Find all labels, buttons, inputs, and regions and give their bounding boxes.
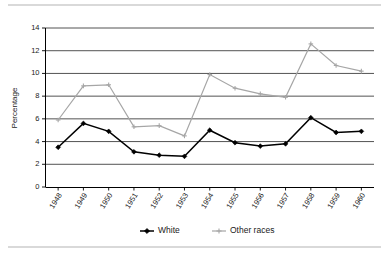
- data-point-marker: [359, 129, 364, 134]
- y-tick-label: 0: [35, 182, 39, 191]
- series-line-2: [58, 44, 361, 136]
- x-tick-label: 1953: [174, 191, 190, 210]
- chart-legend: WhiteOther races: [140, 225, 274, 235]
- x-tick-label: 1960: [351, 191, 367, 210]
- y-axis-title: Percentage: [10, 87, 19, 128]
- data-point-marker: [157, 153, 162, 158]
- x-axis-tick-labels: 1948194919501951195219531954195519561957…: [47, 191, 367, 210]
- x-tick-label: 1958: [300, 191, 316, 210]
- y-tick-label: 4: [35, 137, 39, 146]
- x-tick-label: 1952: [148, 191, 164, 210]
- y-tick-label: 10: [31, 68, 39, 77]
- x-tick-label: 1957: [275, 191, 291, 210]
- x-tick-label: 1950: [98, 191, 114, 210]
- y-tick-label: 12: [31, 46, 39, 55]
- line-chart-plot: 02468101214 1948194919501951195219531954…: [0, 0, 389, 258]
- data-point-marker: [233, 140, 238, 145]
- y-axis-tickmarks: [42, 28, 46, 187]
- x-tick-label: 1959: [325, 191, 341, 210]
- gridlines: [46, 28, 375, 164]
- legend-label: Other races: [230, 225, 274, 235]
- x-tick-label: 1954: [199, 191, 215, 210]
- x-tick-label: 1948: [47, 191, 63, 210]
- x-tick-label: 1956: [250, 191, 266, 210]
- y-tick-label: 14: [31, 23, 39, 32]
- y-axis-tick-labels: 02468101214: [31, 23, 39, 191]
- y-tick-label: 8: [35, 91, 39, 100]
- chart-figure: 02468101214 1948194919501951195219531954…: [0, 0, 389, 258]
- series-line-1: [58, 118, 361, 157]
- y-tick-label: 2: [35, 159, 39, 168]
- x-tick-label: 1949: [73, 191, 89, 210]
- y-tick-label: 6: [35, 114, 39, 123]
- x-tick-label: 1951: [123, 191, 139, 210]
- legend-swatch-marker: [144, 228, 149, 233]
- data-point-marker: [258, 144, 263, 149]
- x-tick-label: 1955: [224, 191, 240, 210]
- legend-label: White: [158, 225, 180, 235]
